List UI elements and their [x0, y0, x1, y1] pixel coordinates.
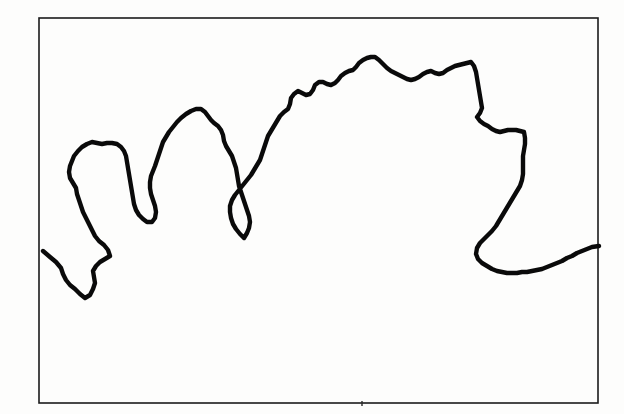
- figure-root: Hand-drawn jagged coastline contour insi…: [0, 0, 624, 414]
- coastline-contour: [43, 57, 599, 298]
- bounding-rectangle: [39, 18, 598, 403]
- figure-canvas: [0, 0, 624, 414]
